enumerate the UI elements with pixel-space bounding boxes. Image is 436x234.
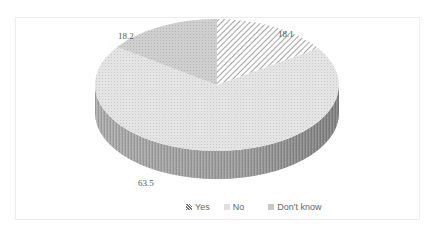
legend-item-no: No: [224, 202, 245, 212]
data-label-no: 63.5: [138, 178, 154, 188]
legend: Yes No Don't know: [186, 202, 321, 212]
legend-swatch-no-icon: [224, 204, 230, 210]
legend-label-dontknow: Don't know: [277, 202, 321, 212]
legend-label-no: No: [233, 202, 245, 212]
legend-swatch-yes-icon: [186, 204, 192, 210]
data-label-yes: 18.1: [278, 29, 294, 39]
legend-label-yes: Yes: [195, 202, 210, 212]
legend-item-dontknow: Don't know: [268, 202, 321, 212]
pie-chart: [0, 0, 436, 234]
data-label-dontknow: 18.2: [118, 31, 134, 41]
legend-item-yes: Yes: [186, 202, 210, 212]
legend-swatch-dontknow-icon: [268, 204, 274, 210]
